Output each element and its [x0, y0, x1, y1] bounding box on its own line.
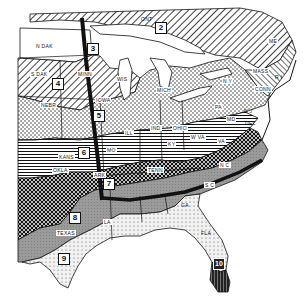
zone-label-3: 3 — [87, 43, 99, 55]
state-label-s-dak: S DAK — [30, 71, 49, 77]
zone-label-10: 10 — [213, 258, 225, 270]
state-label-ill: ILL — [124, 130, 134, 136]
state-label-ind: IND — [150, 125, 162, 131]
zone-label-9: 9 — [58, 253, 70, 265]
state-label-nebr: NEBR — [40, 102, 57, 108]
state-label-ky: KY — [167, 141, 176, 147]
zone-label-5: 5 — [93, 110, 105, 122]
hardiness-zone-map: 3 2 4 5 6 7 8 9 10 ONT N DAK S DAK MINN … — [0, 0, 304, 301]
state-label-iowa: IOWA — [95, 97, 111, 103]
state-label-mich: MICH — [156, 87, 172, 93]
zone-label-8: 8 — [69, 212, 81, 224]
state-label-mass: MASS — [252, 68, 269, 74]
state-label-pa: PA — [214, 104, 223, 110]
zone-label-7: 7 — [103, 178, 115, 190]
state-label-del: DEL — [244, 120, 257, 126]
state-label-ont: ONT — [140, 16, 153, 22]
zone-label-4: 4 — [52, 78, 64, 90]
zone-label-2: 2 — [155, 22, 167, 34]
state-label-ohio: OHIO — [172, 125, 188, 131]
state-label-nc: N C — [219, 162, 231, 168]
state-label-ny: N Y — [222, 78, 233, 84]
state-label-la: LA — [103, 219, 112, 225]
state-label-minn: MINN — [77, 71, 93, 77]
state-label-okla: OKLA — [52, 167, 69, 173]
state-label-n-dak: N DAK — [35, 43, 54, 49]
state-label-ga: GA — [180, 202, 190, 208]
state-label-me: ME — [268, 38, 278, 44]
state-label-conn: CONN — [254, 86, 272, 92]
state-label-nj: N J — [243, 108, 253, 114]
zone-3-region — [20, 28, 92, 62]
state-label-wis: WIS — [116, 76, 128, 82]
state-label-ark: ARK — [93, 172, 106, 178]
state-label-tenn: TENN — [147, 167, 164, 173]
state-label-md: MD — [226, 116, 236, 122]
state-label-ri: R I — [274, 74, 283, 80]
state-label-texas: TEXAS — [56, 230, 76, 236]
state-label-kans: KANS — [58, 154, 75, 160]
state-label-fla: FLA — [200, 230, 212, 236]
state-label-mo: MO — [106, 147, 117, 153]
state-label-va: VA — [217, 138, 226, 144]
state-label-w-va: W VA — [190, 134, 206, 140]
state-label-sc: S C — [204, 182, 215, 188]
zone-label-6: 6 — [78, 147, 90, 159]
